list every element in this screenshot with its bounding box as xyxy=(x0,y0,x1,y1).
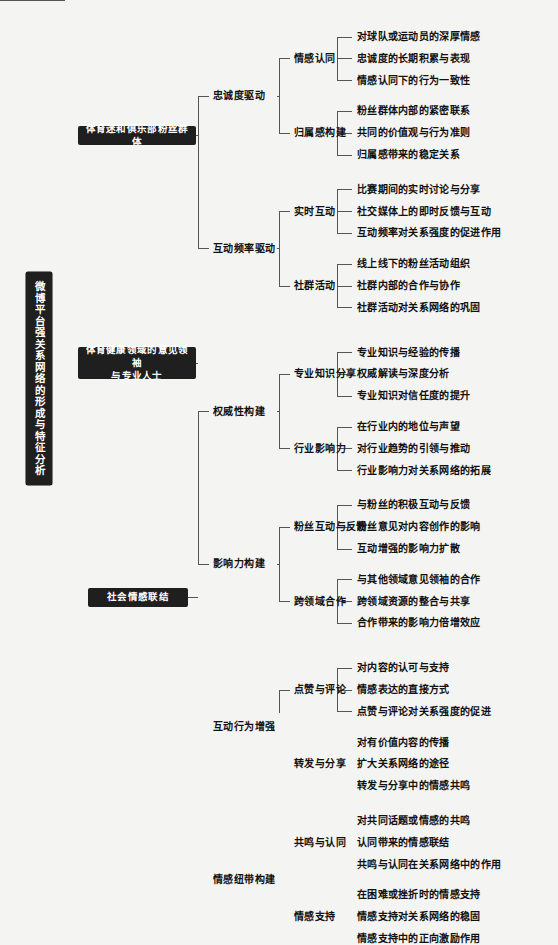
leaf-1-1-1-2[interactable]: 合作带来的影响力倍增效应 xyxy=(357,617,481,629)
leaf-1-0-0-2-text: 专业知识对信任度的提升 xyxy=(357,390,470,401)
node-l3-1-0-1-text: 行业影响力 xyxy=(294,443,346,454)
leaf-1-1-1-1-text: 跨领域资源的整合与共享 xyxy=(357,596,470,607)
node-l3-2-1-0[interactable]: 共鸣与认同 xyxy=(294,837,346,849)
node-l3-0-0-1[interactable]: 归属感构建 xyxy=(294,127,346,139)
leaf-0-1-0-1-text: 社交媒体上的即时反馈与互动 xyxy=(357,206,491,217)
leaf-0-0-1-2[interactable]: 归属感带来的稳定关系 xyxy=(357,149,460,161)
leaf-0-1-1-0-text: 线上线下的粉丝活动组织 xyxy=(357,258,470,269)
leaf-2-1-1-2[interactable]: 情感支持中的正向激励作用 xyxy=(357,933,481,945)
leaf-2-0-1-0[interactable]: 对有价值内容的传播 xyxy=(357,737,450,749)
node-l3-0-1-1-text: 社群活动 xyxy=(294,280,336,291)
leaf-2-1-0-2[interactable]: 共鸣与认同在关系网络中的作用 xyxy=(357,859,501,871)
node-l3-0-1-1[interactable]: 社群活动 xyxy=(294,280,336,292)
leaf-0-0-0-1[interactable]: 忠诚度的长期积累与表现 xyxy=(357,53,470,65)
leaf-2-0-0-0[interactable]: 对内容的认可与支持 xyxy=(357,662,450,674)
leaf-1-1-0-1-text: 粉丝意见对内容创作的影响 xyxy=(357,521,481,532)
node-l2-2-0[interactable]: 互动行为增强 xyxy=(213,721,275,733)
node-l3-1-0-0[interactable]: 专业知识分享 xyxy=(294,368,356,380)
leaf-0-1-1-0[interactable]: 线上线下的粉丝活动组织 xyxy=(357,258,470,270)
leaf-1-1-0-1[interactable]: 粉丝意见对内容创作的影响 xyxy=(357,521,481,533)
leaf-0-0-0-2[interactable]: 情感认同下的行为一致性 xyxy=(357,75,470,87)
node-l3-2-0-0[interactable]: 点赞与评论 xyxy=(294,684,346,696)
node-l2-2-0-text: 互动行为增强 xyxy=(213,721,275,732)
leaf-1-0-0-1[interactable]: 权威解读与深度分析 xyxy=(357,368,450,380)
leaf-2-1-1-0-text: 在困难或挫折时的情感支持 xyxy=(357,889,481,900)
leaf-2-0-0-2-text: 点赞与评论对关系强度的促进 xyxy=(357,706,491,717)
leaf-1-0-0-2[interactable]: 专业知识对信任度的提升 xyxy=(357,390,470,402)
node-l3-2-1-0-text: 共鸣与认同 xyxy=(294,837,346,848)
leaf-0-1-1-1-text: 社群内部的合作与协作 xyxy=(357,280,460,291)
leaf-0-1-0-0[interactable]: 比赛期间的实时讨论与分享 xyxy=(357,184,481,196)
node-l3-1-0-0-text: 专业知识分享 xyxy=(294,368,356,379)
branch-node-2-label: 社会情感联结 xyxy=(107,591,169,604)
leaf-1-0-0-0[interactable]: 专业知识与经验的传播 xyxy=(357,347,460,359)
leaf-1-0-1-1-text: 对行业趋势的引领与推动 xyxy=(357,443,470,454)
node-l2-0-1[interactable]: 互动频率驱动 xyxy=(213,243,275,255)
leaf-1-0-1-1[interactable]: 对行业趋势的引领与推动 xyxy=(357,443,470,455)
branch-node-1-label-line-1: 体育健康领域的意见领袖 xyxy=(86,345,189,368)
node-l2-0-0[interactable]: 忠诚度驱动 xyxy=(213,90,265,102)
node-l3-2-0-0-text: 点赞与评论 xyxy=(294,684,346,695)
leaf-2-0-0-2[interactable]: 点赞与评论对关系强度的促进 xyxy=(357,706,491,718)
branch-node-0[interactable]: 体育迷和俱乐部粉丝群体 xyxy=(78,126,196,145)
leaf-0-0-0-1-text: 忠诚度的长期积累与表现 xyxy=(357,53,470,64)
leaf-2-1-0-1[interactable]: 认同带来的情感联结 xyxy=(357,837,450,849)
node-l3-1-1-0[interactable]: 粉丝互动与反馈 xyxy=(294,521,367,533)
branch-node-1-label-line-2: 与专业人士 xyxy=(111,371,163,381)
leaf-1-1-0-0-text: 与粉丝的积极互动与反馈 xyxy=(357,499,470,510)
branch-node-1[interactable]: 体育健康领域的意见领袖 与专业人士 xyxy=(78,347,196,379)
leaf-1-0-1-2-text: 行业影响力对关系网络的拓展 xyxy=(357,465,491,476)
leaf-1-1-1-0-text: 与其他领域意见领袖的合作 xyxy=(357,574,481,585)
node-l2-0-1-text: 互动频率驱动 xyxy=(213,243,275,254)
leaf-0-0-0-0-text: 对球队或运动员的深厚情感 xyxy=(357,31,481,42)
leaf-2-0-1-1-text: 扩大关系网络的途径 xyxy=(357,758,450,769)
leaf-2-1-1-1-text: 情感支持对关系网络的稳固 xyxy=(357,911,481,922)
leaf-1-1-0-2[interactable]: 互动增强的影响力扩散 xyxy=(357,543,460,555)
leaf-0-1-1-2-text: 社群活动对关系网络的巩固 xyxy=(357,302,481,313)
node-l2-2-1[interactable]: 情感纽带构建 xyxy=(213,874,275,886)
leaf-2-0-1-1[interactable]: 扩大关系网络的途径 xyxy=(357,758,450,770)
leaf-1-1-0-0[interactable]: 与粉丝的积极互动与反馈 xyxy=(357,499,470,511)
leaf-0-1-0-2[interactable]: 互动频率对关系强度的促进作用 xyxy=(357,227,501,239)
leaf-2-1-0-2-text: 共鸣与认同在关系网络中的作用 xyxy=(357,859,501,870)
node-l2-1-0[interactable]: 权威性构建 xyxy=(213,406,265,418)
branch-node-1-label: 体育健康领域的意见领袖 与专业人士 xyxy=(83,344,191,383)
leaf-1-1-0-2-text: 互动增强的影响力扩散 xyxy=(357,543,460,554)
leaf-0-1-0-1[interactable]: 社交媒体上的即时反馈与互动 xyxy=(357,206,491,218)
node-l3-1-1-1-text: 跨领域合作 xyxy=(294,596,346,607)
leaf-0-0-0-0[interactable]: 对球队或运动员的深厚情感 xyxy=(357,31,481,43)
node-l3-0-1-0[interactable]: 实时互动 xyxy=(294,206,336,218)
leaf-1-1-1-1[interactable]: 跨领域资源的整合与共享 xyxy=(357,596,470,608)
leaf-2-0-0-1[interactable]: 情感表达的直接方式 xyxy=(357,684,450,696)
leaf-1-1-1-0[interactable]: 与其他领域意见领袖的合作 xyxy=(357,574,481,586)
node-l3-2-1-1[interactable]: 情感支持 xyxy=(294,911,336,923)
leaf-2-0-1-2[interactable]: 转发与分享中的情感共鸣 xyxy=(357,780,470,792)
leaf-0-0-1-1[interactable]: 共同的价值观与行为准则 xyxy=(357,127,470,139)
leaf-0-0-1-0-text: 粉丝群体内部的紧密联系 xyxy=(357,105,470,116)
leaf-2-1-0-0[interactable]: 对共同话题或情感的共鸣 xyxy=(357,815,470,827)
leaf-1-0-0-1-text: 权威解读与深度分析 xyxy=(357,368,450,379)
leaf-1-0-1-0-text: 在行业内的地位与声望 xyxy=(357,421,460,432)
leaf-2-1-1-1[interactable]: 情感支持对关系网络的稳固 xyxy=(357,911,481,923)
node-l2-0-0-text: 忠诚度驱动 xyxy=(213,90,265,101)
node-l2-1-1[interactable]: 影响力构建 xyxy=(213,558,265,570)
leaf-1-0-1-0[interactable]: 在行业内的地位与声望 xyxy=(357,421,460,433)
root-node-label: 微博平台强关系网络的形成与特征分析 xyxy=(33,281,46,477)
node-l3-1-0-1[interactable]: 行业影响力 xyxy=(294,443,346,455)
root-node[interactable]: 微博平台强关系网络的形成与特征分析 xyxy=(26,272,52,485)
leaf-0-1-1-2[interactable]: 社群活动对关系网络的巩固 xyxy=(357,302,481,314)
leaf-0-0-1-0[interactable]: 粉丝群体内部的紧密联系 xyxy=(357,105,470,117)
branch-node-2[interactable]: 社会情感联结 xyxy=(88,588,188,607)
node-l3-0-0-0[interactable]: 情感认同 xyxy=(294,53,336,65)
leaf-1-0-1-2[interactable]: 行业影响力对关系网络的拓展 xyxy=(357,465,491,477)
leaf-2-1-1-0[interactable]: 在困难或挫折时的情感支持 xyxy=(357,889,481,901)
leaf-0-1-0-0-text: 比赛期间的实时讨论与分享 xyxy=(357,184,481,195)
node-l3-1-1-1[interactable]: 跨领域合作 xyxy=(294,596,346,608)
node-l3-0-0-1-text: 归属感构建 xyxy=(294,127,346,138)
leaf-0-0-1-2-text: 归属感带来的稳定关系 xyxy=(357,149,460,160)
node-l3-1-1-0-text: 粉丝互动与反馈 xyxy=(294,521,367,532)
node-l3-2-0-1[interactable]: 转发与分享 xyxy=(294,758,346,770)
leaf-0-1-1-1[interactable]: 社群内部的合作与协作 xyxy=(357,280,460,292)
